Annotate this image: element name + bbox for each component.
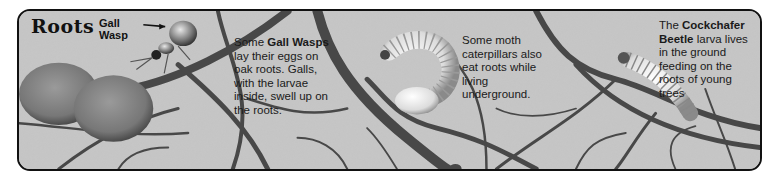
caption-line: the roots. [234, 104, 329, 118]
caption-line: The Cockchafer [659, 19, 748, 33]
caption-line: underground. [462, 88, 542, 102]
caption-line: feeding on the [659, 60, 748, 74]
caption-line: lay their eggs on [234, 50, 329, 64]
caption-line: living [462, 75, 542, 89]
caption-line: trees [659, 87, 748, 101]
caption-line: eat roots while [462, 61, 542, 75]
caption-line: caterpillars also [462, 48, 542, 62]
caption-line: inside, swell up on [234, 90, 329, 104]
caption-line: oak roots. Galls, [234, 63, 329, 77]
page-title: Roots [31, 15, 94, 37]
gall-wasp-caption: Some Gall Waspslay their eggs onoak root… [234, 36, 329, 117]
caption-line: Beetle larva lives [659, 33, 748, 47]
label-line: Gall [99, 17, 128, 29]
roots-illustration-panel: Roots Gall Wasp Some Gall Waspslay their… [17, 9, 762, 171]
cockchafer-caption: The CockchaferBeetle larva livesin the g… [659, 19, 748, 100]
caption-line: Some moth [462, 34, 542, 48]
roots-illustration [19, 11, 760, 169]
label-line: Wasp [99, 29, 128, 41]
caption-line: Some Gall Wasps [234, 36, 329, 50]
caption-line: roots of young [659, 73, 748, 87]
caption-line: with the larvae [234, 77, 329, 91]
caption-line: in the ground [659, 46, 748, 60]
moth-caterpillar-caption: Some mothcaterpillars alsoeat roots whil… [462, 34, 542, 102]
gall-wasp-label: Gall Wasp [99, 17, 128, 41]
